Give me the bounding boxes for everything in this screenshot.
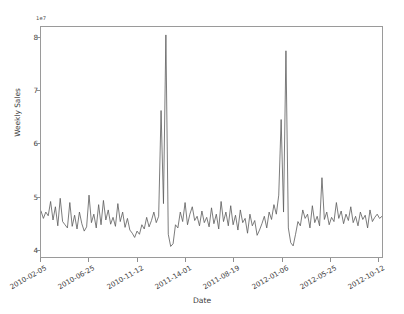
- y-axis-tick-label: 8: [12, 32, 38, 41]
- x-axis-tick-label: 2010-06-25: [54, 264, 96, 293]
- x-axis-tick-mark: [185, 258, 186, 262]
- x-axis-tick-mark: [282, 258, 283, 262]
- y-axis-tick-label: 4: [12, 246, 38, 255]
- y-axis-title: Weekly Sales: [13, 68, 22, 158]
- x-axis-tick-label: 2010-11-12: [103, 264, 145, 293]
- x-axis-tick-label: 2012-05-25: [296, 264, 338, 293]
- series-line-weekly-sales: [41, 27, 382, 257]
- x-axis-tick-label: 2012-10-12: [344, 264, 386, 293]
- x-axis-tick-mark: [88, 258, 89, 262]
- x-axis-tick-mark: [378, 258, 379, 262]
- x-axis-tick-label: 2012-01-06: [247, 264, 289, 293]
- x-axis-tick-mark: [233, 258, 234, 262]
- plot-area: [40, 26, 383, 258]
- x-axis-tick-mark: [137, 258, 138, 262]
- chart-figure: 1e7 45678 Weekly Sales 2010-02-052010-06…: [0, 0, 404, 314]
- x-axis-title: Date: [0, 296, 404, 305]
- x-axis-tick-label: 2011-14-01: [151, 264, 193, 293]
- y-axis-tick-label: 5: [12, 192, 38, 201]
- x-axis-tick-label: 2011-08-19: [199, 264, 241, 293]
- x-axis-tick-mark: [330, 258, 331, 262]
- x-axis-tick-mark: [40, 258, 41, 262]
